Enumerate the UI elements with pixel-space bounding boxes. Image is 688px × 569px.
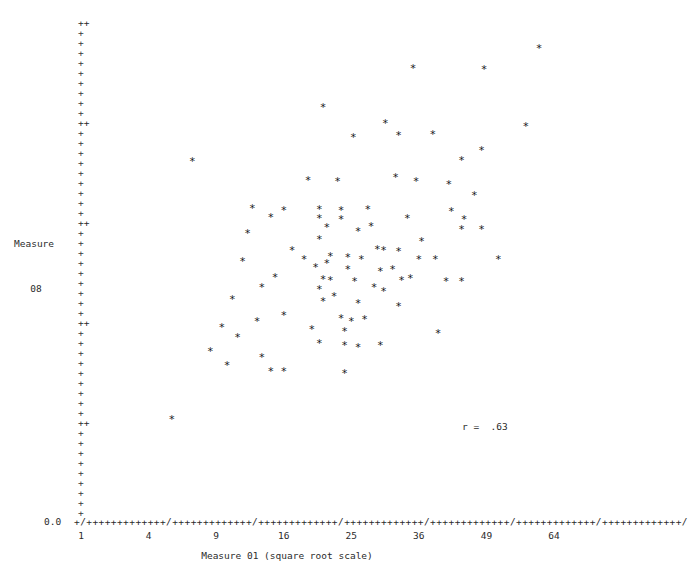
data-point: * (536, 44, 543, 53)
data-point: * (354, 227, 361, 236)
data-point: * (395, 247, 402, 256)
data-point: * (334, 177, 341, 186)
data-point: * (458, 277, 465, 286)
data-point: * (361, 315, 368, 324)
data-point: * (350, 133, 357, 142)
data-point: * (224, 361, 231, 370)
data-point: * (341, 369, 348, 378)
data-point: * (280, 367, 287, 376)
data-point: * (258, 353, 265, 362)
data-point: * (432, 255, 439, 264)
data-point: * (458, 225, 465, 234)
data-point: * (254, 317, 261, 326)
data-point: * (392, 173, 399, 182)
data-point: * (327, 276, 334, 285)
data-point: * (367, 222, 374, 231)
data-point: * (354, 343, 361, 352)
data-point: * (418, 237, 425, 246)
data-point: * (316, 285, 323, 294)
data-point: * (280, 311, 287, 320)
data-point: * (308, 325, 315, 334)
data-point: * (429, 130, 436, 139)
data-point: * (404, 214, 411, 223)
data-point: * (239, 257, 246, 266)
data-point: * (481, 65, 488, 74)
data-point: * (258, 283, 265, 292)
data-point: * (410, 64, 417, 73)
data-point: * (234, 333, 241, 342)
data-point: * (415, 255, 422, 264)
data-point: * (168, 415, 175, 424)
data-point: * (218, 323, 225, 332)
data-point: * (330, 292, 337, 301)
data-point: * (377, 267, 384, 276)
data-point: * (267, 367, 274, 376)
data-point: * (395, 302, 402, 311)
data-point: * (445, 180, 452, 189)
data-point: * (364, 205, 371, 214)
data-point: * (320, 297, 327, 306)
data-point: * (435, 329, 442, 338)
data-point: * (249, 204, 256, 213)
data-point: * (395, 131, 402, 140)
data-point: * (377, 341, 384, 350)
data-point: * (337, 314, 344, 323)
data-point: * (267, 213, 274, 222)
data-point: * (407, 274, 414, 283)
data-point: * (323, 223, 330, 232)
data-point: * (371, 283, 378, 292)
data-point: * (289, 246, 296, 255)
data-point: * (358, 255, 365, 264)
data-point: * (478, 146, 485, 155)
data-point: * (344, 265, 351, 274)
data-point: * (351, 277, 358, 286)
data-point: * (301, 255, 308, 264)
data-point: * (189, 157, 196, 166)
data-point: * (323, 259, 330, 268)
data-point: * (380, 287, 387, 296)
data-point: * (207, 347, 214, 356)
data-point: * (478, 225, 485, 234)
correlation-annotation: r = .63 (462, 421, 508, 432)
data-point: * (522, 122, 529, 131)
data-point: * (272, 273, 279, 282)
data-point: * (495, 255, 502, 264)
data-point: * (229, 295, 236, 304)
data-point: * (312, 263, 319, 272)
data-point: * (458, 156, 465, 165)
data-point: * (341, 341, 348, 350)
data-point: * (316, 235, 323, 244)
data-point: * (354, 299, 361, 308)
data-point: * (337, 215, 344, 224)
data-point: * (443, 277, 450, 286)
data-point: * (448, 207, 455, 216)
data-point: * (341, 327, 348, 336)
data-point: * (398, 276, 405, 285)
data-point: * (320, 103, 327, 112)
data-point: * (316, 339, 323, 348)
data-point: * (244, 229, 251, 238)
data-point: * (304, 176, 311, 185)
data-point: * (413, 177, 420, 186)
data-point: * (344, 253, 351, 262)
data-point: * (471, 191, 478, 200)
data-point: * (389, 265, 396, 274)
data-point: * (316, 214, 323, 223)
data-point: * (280, 206, 287, 215)
data-point: * (382, 119, 389, 128)
data-point: * (348, 317, 355, 326)
data-point: * (380, 246, 387, 255)
